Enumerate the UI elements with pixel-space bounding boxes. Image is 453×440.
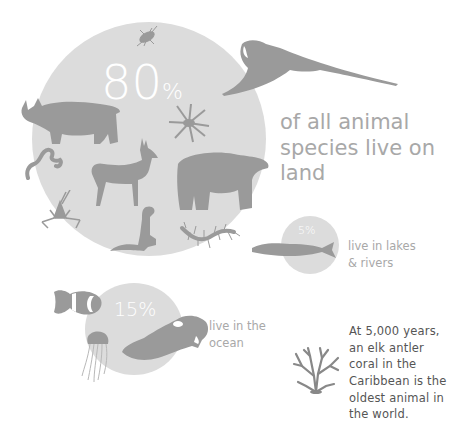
land-caption-line: species live on [280,136,435,162]
elk-antler-coral-icon [292,346,340,394]
spider-icon [167,102,211,144]
coral-fact: At 5,000 years, an elk antler coral in t… [349,323,447,423]
worm-icon [24,146,64,180]
freshwater-caption-line: & rivers [348,255,416,272]
land-caption: of all animal species live on land [280,110,435,187]
fact-line: At 5,000 years, [349,323,447,340]
land-caption-line: land [280,161,435,187]
centipede-icon [178,222,240,252]
ocean-caption-line: ocean [209,335,266,352]
ocean-caption: live in the ocean [209,318,266,351]
cuttlefish-icon [120,312,210,362]
bear-icon [174,150,272,212]
freshwater-percent: 5% [298,224,315,237]
ocean-caption-line: live in the [209,318,266,335]
fact-line: Caribbean is the [349,373,447,390]
ferret-icon [108,205,164,253]
deer-icon [90,136,164,208]
land-caption-line: of all animal [280,110,435,136]
clownfish-icon [50,288,104,316]
jellyfish-icon [80,330,120,382]
beetle-icon [132,24,162,50]
freshwater-caption: live in lakes & rivers [348,238,416,271]
fact-line: the world. [349,406,447,423]
trout-icon [250,240,336,260]
land-percent-sign: % [162,79,183,104]
freshwater-caption-line: live in lakes [348,238,416,255]
grasshopper-icon [40,190,84,232]
fact-line: oldest animal in [349,390,447,407]
fact-line: an elk antler [349,340,447,357]
parrot-icon [220,38,400,100]
fact-line: coral in the [349,356,447,373]
